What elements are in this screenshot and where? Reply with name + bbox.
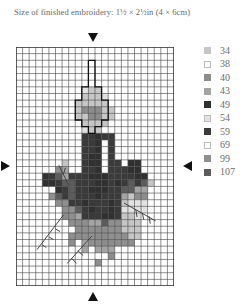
thread-code-label: 40 (220, 73, 230, 83)
color-swatch (204, 155, 211, 162)
color-swatch (204, 88, 211, 95)
legend-item: 59 (204, 125, 235, 139)
legend-item: 43 (204, 85, 235, 99)
thread-code-label: 54 (220, 113, 230, 123)
stitch-grid-canvas (16, 47, 174, 286)
chart-title: Size of finished embroidery: 1½ × 2½in (… (14, 7, 190, 17)
color-swatch (204, 61, 211, 68)
color-swatch (204, 74, 211, 81)
thread-code-label: 107 (220, 167, 235, 177)
thread-code-label: 49 (220, 100, 230, 110)
color-swatch (204, 47, 211, 54)
color-swatch (204, 169, 211, 176)
legend-item: 38 (204, 58, 235, 72)
thread-code-label: 38 (220, 59, 230, 69)
color-key-legend: 343840434954596999107 (204, 44, 235, 179)
thread-code-label: 59 (220, 127, 230, 137)
color-swatch (204, 128, 211, 135)
color-swatch (204, 101, 211, 108)
thread-code-label: 99 (220, 154, 230, 164)
color-swatch (204, 142, 211, 149)
thread-code-label: 34 (220, 46, 230, 56)
center-marker-right-icon (183, 161, 192, 171)
legend-item: 54 (204, 112, 235, 126)
legend-item: 40 (204, 71, 235, 85)
stitch-grid (16, 47, 174, 286)
legend-item: 34 (204, 44, 235, 58)
center-marker-left-icon (1, 161, 10, 171)
legend-item: 49 (204, 98, 235, 112)
color-swatch (204, 115, 211, 122)
center-marker-bottom-icon (88, 292, 98, 301)
legend-item: 107 (204, 166, 235, 180)
thread-code-label: 69 (220, 140, 230, 150)
legend-item: 69 (204, 139, 235, 153)
center-marker-top-icon (88, 33, 98, 42)
legend-item: 99 (204, 152, 235, 166)
thread-code-label: 43 (220, 86, 230, 96)
